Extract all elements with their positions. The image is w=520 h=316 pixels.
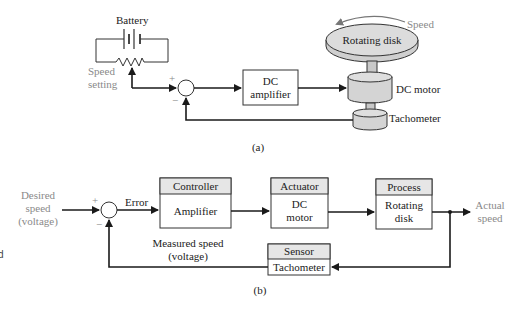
controller-block: Controller Amplifier xyxy=(160,178,231,228)
controller-header: Controller xyxy=(173,180,219,192)
desired-speed-label: Desired xyxy=(21,189,56,201)
speed-arrow-icon xyxy=(337,16,405,24)
speed-setting-label: Speed xyxy=(88,65,115,77)
process-block: Process Rotating disk xyxy=(376,179,432,229)
controller-body: Amplifier xyxy=(174,205,218,217)
dc-motor-icon xyxy=(348,72,392,103)
amplifier-label-1: DC xyxy=(263,75,278,87)
actuator-body-1: DC xyxy=(292,198,307,210)
speed-label: Speed xyxy=(407,18,434,30)
control-system-diagram: Battery Speed setting + − DC amplifier R… xyxy=(0,0,520,316)
actuator-body-2: motor xyxy=(286,211,313,223)
error-label: Error xyxy=(125,196,149,208)
speed-setting-label-2: setting xyxy=(88,78,118,90)
summing-junction-a xyxy=(178,80,194,96)
summing-junction-b xyxy=(101,202,117,218)
plus-sign-b: + xyxy=(92,194,98,206)
measured-speed-label-2: (voltage) xyxy=(168,250,208,263)
process-body-1: Rotating xyxy=(385,199,423,211)
tachometer-icon xyxy=(353,109,387,130)
measured-speed-label: Measured speed xyxy=(152,237,224,249)
plus-sign: + xyxy=(169,72,175,84)
caption-b: (b) xyxy=(254,284,267,297)
edge-text-fragment: d xyxy=(0,249,4,260)
process-body-2: disk xyxy=(395,212,414,224)
desired-speed-label-2: speed xyxy=(25,202,51,214)
sensor-block: Sensor Tachometer xyxy=(268,244,330,275)
diagram-b: Desired speed (voltage) + − Error Contro… xyxy=(18,178,505,297)
minus-sign-b: − xyxy=(96,218,102,230)
tachometer-label: Tachometer xyxy=(389,112,441,124)
battery-label: Battery xyxy=(116,14,149,26)
actual-speed-label: Actual xyxy=(475,199,504,211)
disk-label: Rotating disk xyxy=(343,34,402,46)
sensor-header: Sensor xyxy=(284,245,314,257)
process-header: Process xyxy=(387,181,421,193)
amplifier-label-2: amplifier xyxy=(250,88,291,100)
sensor-body: Tachometer xyxy=(273,261,325,273)
battery-icon xyxy=(96,29,168,62)
actual-speed-label-2: speed xyxy=(477,212,503,224)
dc-motor-label: DC motor xyxy=(396,83,441,95)
desired-speed-label-3: (voltage) xyxy=(18,215,58,228)
actuator-block: Actuator DC motor xyxy=(271,178,328,228)
minus-sign: − xyxy=(172,94,178,106)
caption-a: (a) xyxy=(252,141,265,154)
potentiometer-icon xyxy=(116,58,144,66)
diagram-a: Battery Speed setting + − DC amplifier R… xyxy=(88,14,441,154)
actuator-header: Actuator xyxy=(280,180,319,192)
